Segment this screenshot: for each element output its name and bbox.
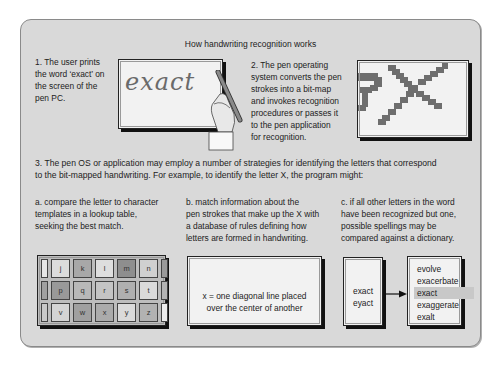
lookup-cell-edge: [161, 259, 168, 278]
hand-with-pen-icon: [200, 70, 250, 152]
dictionary-entry-highlighted: exact: [414, 287, 474, 299]
rule-text: x = one diagonal line placed over the ce…: [188, 290, 321, 314]
arrow-right-icon: [385, 290, 407, 298]
step2-text: 2. The pen operating system converts the…: [251, 59, 342, 143]
strategy-b-text: b. match information about the pen strok…: [186, 196, 319, 244]
dictionary-list: evolve exacerbate exact exaggerate exalt: [414, 263, 474, 323]
lookup-cell-p: p: [51, 281, 70, 300]
step1-text: 1. The user prints the word ‘exact’ on t…: [35, 56, 105, 104]
lookup-cell-y: y: [117, 303, 136, 322]
lookup-cell-z: z: [139, 303, 158, 322]
candidate-spelling: exact: [344, 285, 382, 297]
dictionary-entry: exacerbate: [414, 275, 474, 287]
step3-text: 3. The pen OS or application may employ …: [35, 157, 437, 181]
lookup-cell-j: j: [51, 259, 70, 278]
lookup-cell-edge: [41, 259, 48, 278]
dictionary-box: evolve exacerbate exact exaggerate exalt: [407, 256, 462, 326]
lookup-cell-r: r: [95, 281, 114, 300]
lookup-cell-w: w: [73, 303, 92, 322]
rules-database-box: x = one diagonal line placed over the ce…: [187, 256, 322, 326]
bitmap-x-icon: [358, 61, 469, 138]
lookup-cell-q: q: [73, 281, 92, 300]
lookup-cell-edge: [41, 281, 48, 300]
strategy-a-text: a. compare the letter to character templ…: [35, 196, 158, 232]
lookup-cell-edge: [161, 281, 168, 300]
dictionary-entry: exalt: [414, 311, 474, 323]
lookup-cell-k: k: [73, 259, 92, 278]
lookup-cell-t: t: [139, 281, 158, 300]
dictionary-entry: exaggerate: [414, 299, 474, 311]
lookup-cell-s: s: [117, 281, 136, 300]
lookup-table: jklmnpqrstvwxyz: [37, 255, 166, 326]
lookup-grid: jklmnpqrstvwxyz: [41, 259, 162, 322]
dictionary-entry: evolve: [414, 263, 474, 275]
candidate-spellings-box: exact eyact: [343, 257, 383, 326]
lookup-cell-edge: [41, 303, 48, 322]
strategy-c-text: c. if all other letters in the word have…: [341, 196, 456, 244]
bitmap-view: [357, 60, 469, 138]
lookup-cell-v: v: [51, 303, 70, 322]
diagram-title: How handwriting recognition works: [0, 39, 501, 49]
lookup-cell-l: l: [95, 259, 114, 278]
lookup-cell-n: n: [139, 259, 158, 278]
lookup-cell-m: m: [117, 259, 136, 278]
candidate-spelling: eyact: [344, 297, 382, 309]
handwritten-word: exact: [125, 68, 195, 96]
lookup-cell-x: x: [95, 303, 114, 322]
lookup-cell-edge: [161, 303, 168, 322]
